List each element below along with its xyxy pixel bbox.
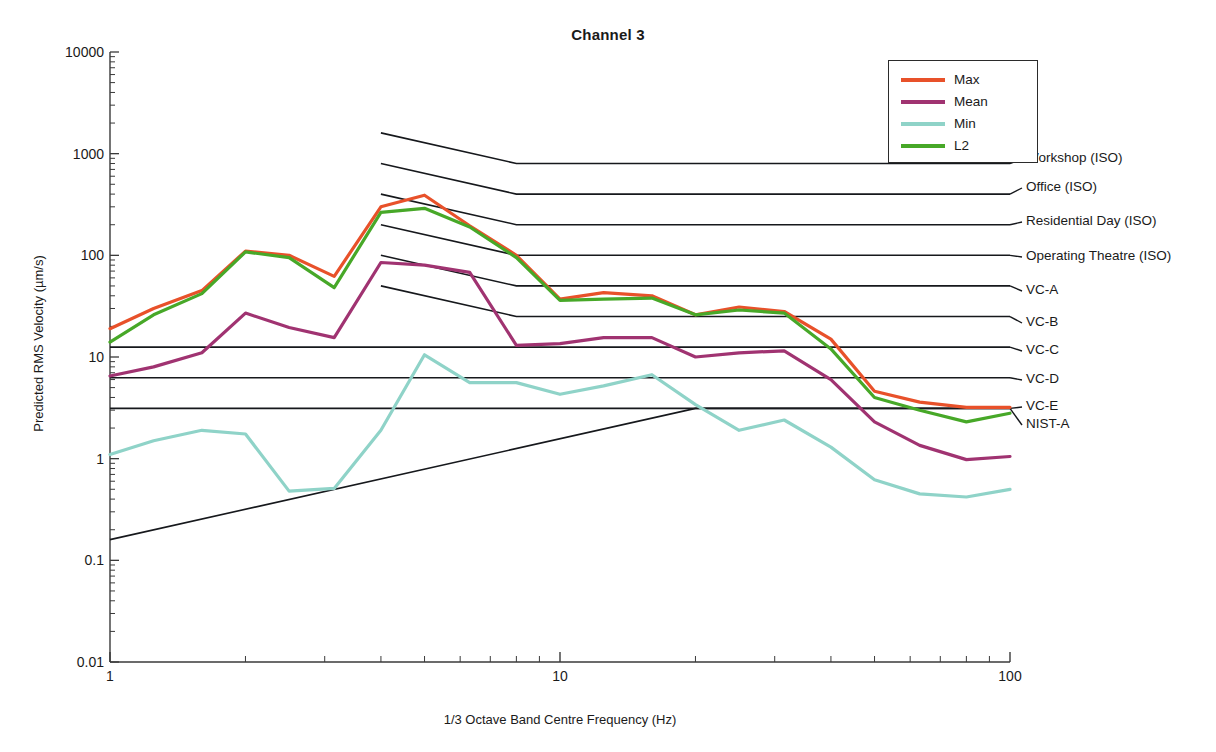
criteria-leader — [1010, 222, 1022, 225]
criteria-line-vc-b — [381, 286, 1010, 317]
legend-swatch-max-icon — [901, 78, 945, 82]
criteria-leader — [1010, 347, 1022, 351]
criteria-leader — [1010, 286, 1022, 291]
legend-label: L2 — [954, 139, 969, 153]
legend: MaxMeanMinL2 — [888, 60, 1038, 163]
criteria-leader — [1010, 255, 1022, 257]
chart-canvas: Channel 3 Predicted RMS Velocity (µm/s) … — [0, 0, 1216, 752]
legend-swatch-mean-icon — [901, 100, 945, 104]
criteria-leader — [1010, 408, 1022, 425]
criteria-line-residential-day-iso — [381, 194, 1010, 225]
legend-label: Max — [954, 73, 980, 87]
criteria-line-office-iso — [381, 164, 1010, 195]
legend-swatch-l2-icon — [901, 144, 945, 148]
legend-item-min[interactable]: Min — [901, 113, 1037, 135]
legend-label: Mean — [954, 95, 988, 109]
legend-item-l2[interactable]: L2 — [901, 135, 1037, 157]
series-line-min — [110, 355, 1010, 497]
criteria-leader — [1010, 188, 1022, 194]
legend-item-max[interactable]: Max — [901, 69, 1037, 91]
legend-label: Min — [954, 117, 976, 131]
series-line-mean — [110, 263, 1010, 460]
legend-swatch-min-icon — [901, 122, 945, 126]
criteria-leader — [1010, 378, 1022, 380]
criteria-line-nist-a — [110, 408, 1010, 539]
legend-item-mean[interactable]: Mean — [901, 91, 1037, 113]
criteria-leader — [1010, 317, 1022, 323]
criteria-leader — [1010, 407, 1022, 408]
